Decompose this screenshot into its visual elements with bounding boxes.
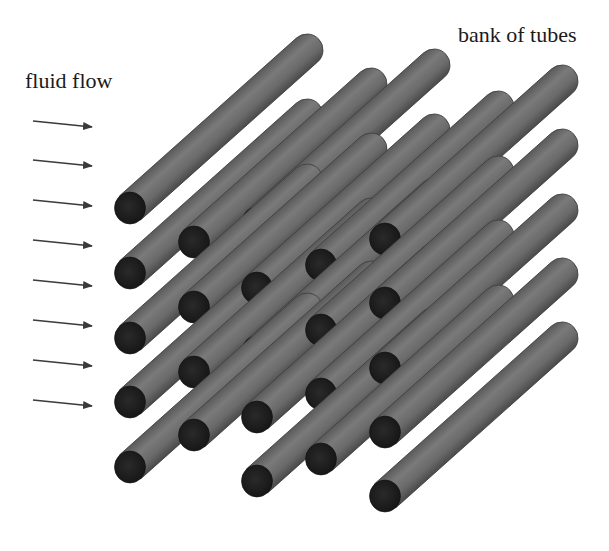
tube-end-icon <box>242 401 273 433</box>
right-arrow-icon <box>33 280 92 286</box>
right-arrow-icon <box>33 121 92 127</box>
tube-bank <box>115 27 585 512</box>
right-arrow-icon <box>33 160 92 166</box>
tube-end-icon <box>370 480 401 512</box>
right-arrow-icon <box>33 320 92 326</box>
right-arrow-icon <box>33 240 92 246</box>
tube-end-icon <box>115 192 146 224</box>
tube-end-icon <box>179 419 210 451</box>
tube-end-icon <box>115 257 146 289</box>
tube-end-icon <box>242 465 273 497</box>
tube-bank-diagram <box>0 0 609 551</box>
right-arrow-icon <box>33 200 92 206</box>
tube-end-icon <box>115 451 146 483</box>
tube-end-icon <box>115 322 146 354</box>
right-arrow-icon <box>33 360 92 366</box>
right-arrow-icon <box>33 400 92 406</box>
tube-end-icon <box>115 386 146 418</box>
tube-end-icon <box>306 443 337 475</box>
flow-arrows <box>33 121 92 406</box>
tube-end-icon <box>370 416 401 448</box>
